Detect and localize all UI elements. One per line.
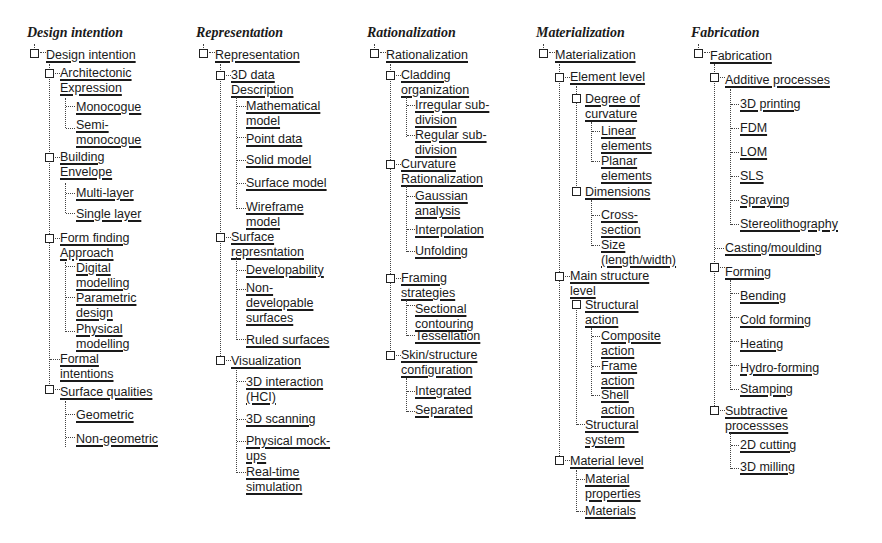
tree-leaf[interactable]: Planar elements	[601, 154, 652, 184]
tree-node[interactable]: Material level	[570, 454, 644, 469]
tree-leaf[interactable]: FDM	[740, 121, 767, 136]
tree-leaf[interactable]: Non-geometric	[76, 432, 158, 447]
expand-toggle-icon[interactable]	[45, 69, 54, 78]
tree-leaf[interactable]: Parametric design	[76, 291, 136, 321]
expand-toggle-icon[interactable]	[386, 351, 395, 360]
tree-node[interactable]: Structural system	[585, 418, 639, 448]
tree-node[interactable]: Skin/structure configuration	[401, 348, 477, 378]
tree-node[interactable]: Additive processes	[725, 73, 830, 88]
expand-toggle-icon[interactable]	[216, 356, 225, 365]
tree-leaf[interactable]: Digital modelling	[76, 261, 130, 291]
tree-root[interactable]: Representation	[215, 48, 300, 63]
tree-leaf[interactable]: Cold forming	[740, 313, 811, 328]
expand-toggle-icon[interactable]	[45, 385, 54, 394]
tree-leaf[interactable]: 3D interaction (HCI)	[246, 375, 323, 405]
tree-leaf[interactable]: Regular sub- division	[415, 128, 487, 158]
tree-leaf[interactable]: Wireframe model	[246, 200, 304, 230]
tree-leaf[interactable]: Integrated	[415, 384, 471, 399]
tree-leaf[interactable]: Semi- monocogue	[76, 118, 141, 148]
tree-leaf[interactable]: Material properties	[585, 472, 641, 502]
expand-toggle-icon[interactable]	[710, 263, 719, 272]
tree-leaf[interactable]: Separated	[415, 403, 473, 418]
expand-toggle-icon[interactable]	[555, 456, 564, 465]
tree-leaf[interactable]: Real-time simulation	[246, 465, 302, 495]
tree-leaf[interactable]: Point data	[246, 132, 302, 147]
expand-toggle-icon[interactable]	[555, 272, 564, 281]
tree-leaf[interactable]: Linear elements	[601, 124, 652, 154]
tree-node[interactable]: Visualization	[231, 354, 301, 369]
expand-toggle-icon[interactable]	[555, 73, 564, 82]
tree-leaf[interactable]: Mathematical model	[246, 99, 320, 129]
tree-leaf[interactable]: Multi-layer	[76, 186, 134, 201]
expand-toggle-icon[interactable]	[216, 71, 225, 80]
tree-leaf[interactable]: Materials	[585, 504, 636, 519]
tree-leaf[interactable]: Shell action	[601, 388, 634, 418]
expand-toggle-icon[interactable]	[386, 160, 395, 169]
tree-node[interactable]: Casting/moulding	[725, 241, 822, 256]
tree-node[interactable]: Cladding organization	[401, 68, 469, 98]
tree-leaf[interactable]: Size (length/width)	[601, 238, 676, 268]
expand-toggle-icon[interactable]	[45, 234, 54, 243]
tree-node[interactable]: Surface qualities	[60, 385, 152, 400]
tree-node[interactable]: Degree of curvature	[585, 92, 640, 122]
tree-leaf[interactable]: Physical mock- ups	[246, 434, 330, 464]
expand-toggle-icon[interactable]	[199, 49, 208, 58]
tree-leaf[interactable]: 2D cutting	[740, 438, 796, 453]
tree-node[interactable]: Formal intentions	[60, 352, 114, 382]
expand-toggle-icon[interactable]	[386, 274, 395, 283]
expand-toggle-icon[interactable]	[572, 94, 581, 103]
tree-leaf[interactable]: Hydro-forming	[740, 361, 819, 376]
expand-toggle-icon[interactable]	[539, 49, 548, 58]
tree-root[interactable]: Materialization	[555, 48, 636, 63]
tree-leaf[interactable]: Monocogue	[76, 100, 141, 115]
tree-leaf[interactable]: Geometric	[76, 408, 134, 423]
tree-root[interactable]: Design intention	[46, 48, 136, 63]
expand-toggle-icon[interactable]	[216, 233, 225, 242]
tree-node[interactable]: Dimensions	[585, 185, 650, 200]
tree-leaf[interactable]: Sectional contouring	[415, 302, 473, 332]
tree-leaf[interactable]: Frame action	[601, 359, 637, 389]
tree-leaf[interactable]: Gaussian analysis	[415, 189, 468, 219]
tree-leaf[interactable]: Cross- section	[601, 208, 641, 238]
expand-toggle-icon[interactable]	[694, 49, 703, 58]
tree-node[interactable]: Forming	[725, 265, 771, 280]
tree-leaf[interactable]: 3D scanning	[246, 412, 316, 427]
tree-leaf[interactable]: Interpolation	[415, 223, 484, 238]
tree-node[interactable]: Subtractive processses	[725, 404, 788, 434]
tree-node[interactable]: Main structure level	[570, 269, 649, 299]
tree-node[interactable]: Structural action	[585, 298, 639, 328]
tree-leaf[interactable]: Bending	[740, 289, 786, 304]
tree-leaf[interactable]: Solid model	[246, 153, 311, 168]
expand-toggle-icon[interactable]	[386, 71, 395, 80]
tree-leaf[interactable]: Non- developable surfaces	[246, 281, 313, 326]
tree-node[interactable]: Curvature Rationalization	[401, 157, 483, 187]
tree-leaf[interactable]: Composite action	[601, 329, 661, 359]
expand-toggle-icon[interactable]	[370, 49, 379, 58]
tree-leaf[interactable]: Unfolding	[415, 244, 468, 259]
tree-root[interactable]: Rationalization	[386, 48, 468, 63]
tree-node[interactable]: Architectonic Expression	[60, 66, 132, 96]
tree-leaf[interactable]: SLS	[740, 169, 764, 184]
tree-leaf[interactable]: Irregular sub- division	[415, 98, 489, 128]
expand-toggle-icon[interactable]	[572, 300, 581, 309]
tree-node[interactable]: Building Envelope	[60, 150, 112, 180]
tree-node[interactable]: Element level	[570, 70, 645, 85]
expand-toggle-icon[interactable]	[30, 49, 39, 58]
tree-node[interactable]: Form finding Approach	[60, 231, 129, 261]
tree-leaf[interactable]: 3D printing	[740, 97, 800, 112]
tree-leaf[interactable]: Spraying	[740, 193, 789, 208]
tree-node[interactable]: Surface represntation	[231, 230, 304, 260]
tree-leaf[interactable]: LOM	[740, 145, 767, 160]
tree-leaf[interactable]: Surface model	[246, 176, 327, 191]
tree-leaf[interactable]: Tessellation	[415, 329, 480, 344]
tree-node[interactable]: Framing strategies	[401, 271, 455, 301]
tree-leaf[interactable]: 3D milling	[740, 460, 795, 475]
expand-toggle-icon[interactable]	[710, 406, 719, 415]
tree-leaf[interactable]: Ruled surfaces	[246, 333, 329, 348]
tree-leaf[interactable]: Stamping	[740, 382, 793, 397]
tree-leaf[interactable]: Developability	[246, 263, 324, 278]
tree-leaf[interactable]: Stereolithography	[740, 217, 838, 232]
expand-toggle-icon[interactable]	[710, 73, 719, 82]
tree-root[interactable]: Fabrication	[710, 49, 772, 64]
tree-leaf[interactable]: Heating	[740, 337, 783, 352]
